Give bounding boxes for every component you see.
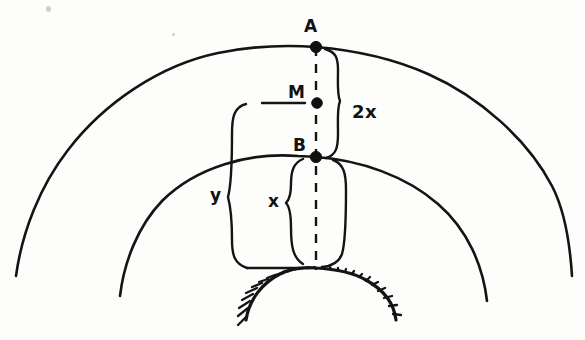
brace-x-outline-right [322,160,346,267]
scan-speck [46,6,51,12]
measure-label-two-x: 2x [352,103,377,121]
point-dot-M[interactable] [312,98,323,109]
ground-hatching [238,267,401,325]
point-label-A: A [304,18,317,35]
ground-surface-arc [246,268,396,320]
point-label-B: B [293,137,306,154]
measure-label-y: y [210,187,221,204]
point-dot-B[interactable] [310,151,321,162]
brace-x [286,159,303,264]
inner-arc [120,155,487,301]
brace-y [228,104,247,268]
sketch-drawing-surface [0,0,585,340]
outer-arc [16,46,572,276]
point-label-M: M [288,84,305,101]
measure-label-x: x [268,193,279,210]
scan-speck [172,33,175,36]
diagram-canvas: A M B 2x x y [0,0,585,340]
brace-two-x [325,49,340,158]
point-dot-A[interactable] [310,41,321,52]
